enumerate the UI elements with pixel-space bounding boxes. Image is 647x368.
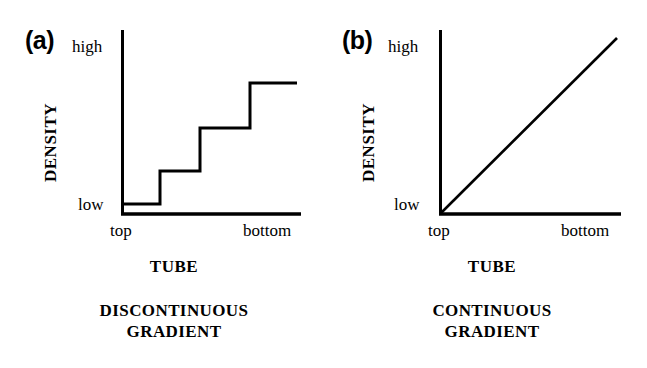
panel-b-x-axis-label: TUBE	[468, 258, 516, 275]
panel-b-diagonal-curve	[441, 38, 617, 213]
panel-a-step-curve	[123, 83, 297, 204]
panel-a-caption-line1: DISCONTINUOUS	[100, 300, 249, 321]
panel-a-x-tick-left: top	[110, 222, 132, 239]
panel-a-caption: DISCONTINUOUS GRADIENT	[100, 300, 249, 343]
panel-b-x-tick-right: bottom	[561, 222, 609, 239]
panel-b-caption-line2: GRADIENT	[432, 321, 551, 342]
figure-container: (a) high low DENSITY top bottom TUBE DIS…	[0, 0, 647, 368]
panel-b-caption-line1: CONTINUOUS	[432, 300, 551, 321]
panel-b-caption: CONTINUOUS GRADIENT	[432, 300, 551, 343]
panel-a-x-axis-label: TUBE	[150, 258, 198, 275]
panel-a-discontinuous: (a) high low DENSITY top bottom TUBE DIS…	[0, 0, 330, 368]
panel-b-continuous: (b) high low DENSITY top bottom TUBE CON…	[320, 0, 647, 368]
panel-a-x-tick-right: bottom	[243, 222, 291, 239]
panel-b-x-tick-left: top	[428, 222, 450, 239]
panel-a-caption-line2: GRADIENT	[100, 321, 249, 342]
